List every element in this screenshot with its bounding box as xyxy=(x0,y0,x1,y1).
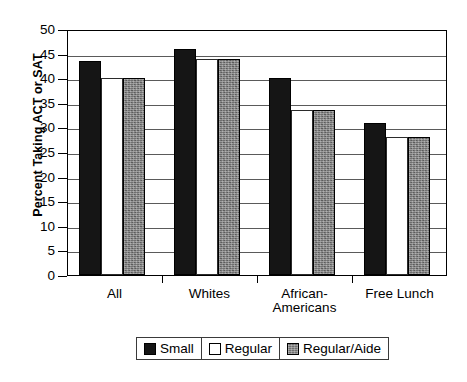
y-axis-tick-mark xyxy=(58,178,67,179)
x-axis-category-label: Free Lunch xyxy=(352,287,447,301)
bar-group xyxy=(258,31,353,275)
x-axis-category-label-line: All xyxy=(67,287,162,301)
y-axis-tick-label: 40 xyxy=(40,72,55,86)
bar xyxy=(123,78,145,275)
x-axis-category-label-line: African- xyxy=(257,287,352,301)
bar xyxy=(313,110,335,275)
y-axis-tick-mark xyxy=(58,153,67,154)
legend-item: Regular xyxy=(202,338,280,359)
y-axis-tick-label: 30 xyxy=(40,122,55,136)
x-axis-category-label: Whites xyxy=(162,287,257,301)
y-axis-tick-label: 5 xyxy=(47,245,55,259)
y-axis-tick-mark xyxy=(58,276,67,277)
gray-textured-swatch xyxy=(287,343,299,355)
bar xyxy=(196,59,218,275)
bar xyxy=(79,61,101,275)
x-axis: AllWhitesAfrican-AmericansFree Lunch xyxy=(67,276,447,322)
bar-chart-figure: Percent Taking ACT or SAT 05101520253035… xyxy=(0,0,467,382)
legend-item-label: Regular/Aide xyxy=(303,341,381,356)
x-axis-separator xyxy=(257,276,258,283)
y-axis-tick-label: 10 xyxy=(40,220,55,234)
x-axis-category-label: African-Americans xyxy=(257,287,352,315)
y-axis-ticks: 05101520253035404550 xyxy=(0,30,67,276)
y-axis-tick-mark xyxy=(58,55,67,56)
y-axis-tick-mark xyxy=(58,30,67,31)
legend-item-label: Regular xyxy=(225,341,272,356)
y-axis-tick-label: 25 xyxy=(40,146,55,160)
y-axis-tick-mark xyxy=(58,251,67,252)
bar xyxy=(101,78,123,275)
bar-group xyxy=(353,31,448,275)
y-axis-tick-mark xyxy=(58,128,67,129)
y-axis-tick-label: 45 xyxy=(40,48,55,62)
y-axis-tick-label: 50 xyxy=(40,23,55,37)
black-filled-swatch xyxy=(144,343,156,355)
white-outline-swatch xyxy=(209,343,221,355)
bar-group xyxy=(68,31,163,275)
legend-item-label: Small xyxy=(160,341,194,356)
bar xyxy=(218,59,240,275)
y-axis-tick-label: 35 xyxy=(40,97,55,111)
y-axis-tick-label: 20 xyxy=(40,171,55,185)
chart-legend: SmallRegularRegular/Aide xyxy=(136,337,389,360)
y-axis-tick-label: 15 xyxy=(40,195,55,209)
legend-item: Regular/Aide xyxy=(280,338,388,359)
bar xyxy=(291,110,313,275)
y-axis-tick-mark xyxy=(58,202,67,203)
legend-item: Small xyxy=(137,338,202,359)
bar xyxy=(269,78,291,275)
y-axis-tick-mark xyxy=(58,79,67,80)
plot-area xyxy=(67,30,447,276)
y-axis-tick-label: 0 xyxy=(47,269,55,283)
x-axis-separator xyxy=(352,276,353,283)
x-axis-category-label-line: Free Lunch xyxy=(352,287,447,301)
bar-group xyxy=(163,31,258,275)
bar xyxy=(364,123,386,275)
x-axis-category-label: All xyxy=(67,287,162,301)
bar xyxy=(386,137,408,275)
bar xyxy=(408,137,430,275)
x-axis-separator xyxy=(162,276,163,283)
x-axis-category-label-line: Whites xyxy=(162,287,257,301)
bar xyxy=(174,49,196,275)
y-axis-tick-mark xyxy=(58,227,67,228)
x-axis-category-label-line: Americans xyxy=(257,301,352,315)
y-axis-tick-mark xyxy=(58,104,67,105)
